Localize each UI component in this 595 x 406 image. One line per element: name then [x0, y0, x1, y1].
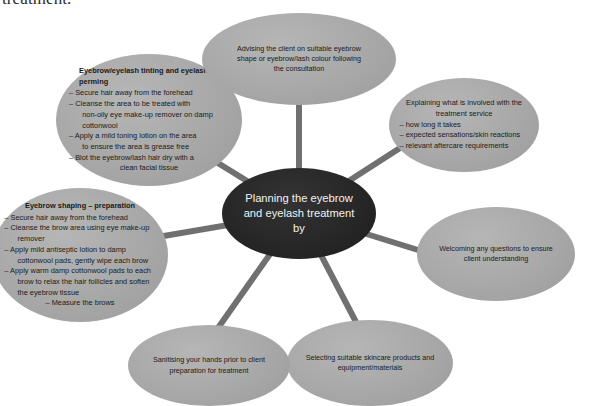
node-advising-client-line: the consultation	[218, 64, 381, 74]
node-welcoming-questions[interactable]: Welcoming any questions to ensure client…	[417, 207, 575, 301]
node-eyebrow-shaping-item: – Apply warm damp cottonwool pads to eac…	[4, 266, 155, 298]
node-sanitising-hands-line: preparation for treatment	[141, 366, 277, 376]
node-welcoming-questions-line: client understanding	[430, 254, 563, 264]
node-eyebrow-shaping-item: – Secure hair away from the forehead	[4, 213, 155, 224]
node-welcoming-questions-line: Welcoming any questions to ensure	[430, 244, 563, 254]
node-tinting-perming-item: – Apply a mild toning lotion on the area…	[69, 131, 229, 152]
node-advising-client-line: Advising the client on suitable eyebrow	[218, 44, 381, 54]
node-sanitising-hands-line: Sanitising your hands prior to client	[141, 355, 277, 365]
node-selecting-products-line: Selecting suitable skincare products and	[300, 353, 439, 363]
node-eyebrow-shaping-heading: Eyebrow shaping – preparation	[4, 201, 155, 212]
node-tinting-perming-item: – Secure hair away from the forehead	[69, 88, 229, 99]
node-tinting-perming-item: – Cleanse the area to be treated with no…	[69, 99, 229, 131]
node-explaining-service-heading-line: treatment service	[400, 109, 529, 120]
diagram-canvas: treatment. Eyebrow/eyelash tinting and e…	[0, 0, 595, 406]
center-hub-line: by	[234, 221, 363, 236]
node-explaining-service-item: – relevant aftercare requirements	[400, 141, 529, 152]
center-hub-line: Planning the eyebrow	[234, 191, 363, 206]
node-explaining-service-heading-line: Explaining what is involved with the	[400, 98, 529, 109]
node-selecting-products-line: equipment/materials	[300, 363, 439, 373]
node-advising-client-line: shape or eyebrow/lash colour following	[218, 54, 381, 64]
node-explaining-service[interactable]: Explaining what is involved with the tre…	[389, 78, 539, 172]
node-eyebrow-shaping[interactable]: Eyebrow shaping – preparation – Secure h…	[0, 188, 168, 322]
node-center-hub[interactable]: Planning the eyebrow and eyelash treatme…	[222, 168, 376, 259]
node-tinting-perming-item: – Blot the eyebrow/lash hair dry with a	[69, 153, 229, 164]
center-hub-line: and eyelash treatment	[234, 206, 363, 221]
node-selecting-products[interactable]: Selecting suitable skincare products and…	[287, 320, 453, 406]
cut-off-body-text: treatment.	[2, 0, 71, 9]
node-sanitising-hands[interactable]: Sanitising your hands prior to client pr…	[128, 325, 290, 406]
node-eyebrow-shaping-subitem: – Measure the brows	[4, 298, 155, 309]
node-eyebrow-shaping-item: – Apply mild antiseptic lotion to damp c…	[4, 245, 155, 266]
node-advising-client[interactable]: Advising the client on suitable eyebrow …	[202, 13, 396, 105]
node-explaining-service-item: – expected sensations/skin reactions	[400, 130, 529, 141]
node-tinting-perming-subitem: clean facial tissue	[69, 163, 229, 174]
node-explaining-service-item: – how long it takes	[400, 120, 529, 131]
node-eyebrow-shaping-item: – Cleanse the brow area using eye make-u…	[4, 223, 155, 244]
